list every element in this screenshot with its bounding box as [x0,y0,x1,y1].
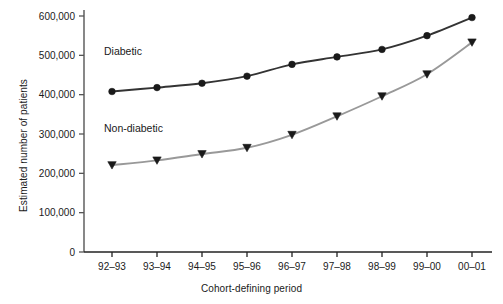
x-axis-tick-label: 93–94 [143,261,171,272]
series-annotation: Diabetic [104,45,142,57]
series-annotation: Non-diabetic [104,122,163,134]
x-axis-tick-label: 92–93 [98,261,126,272]
x-axis-title: Cohort-defining period [0,283,503,294]
x-axis-tick-label: 94–95 [188,261,216,272]
line-chart: 0100,000200,000300,000400,000500,000600,… [0,0,503,304]
y-axis-tick-label: 100,000 [39,207,76,218]
data-point-marker [424,32,431,39]
data-point-marker [199,80,206,87]
x-axis-tick-label: 00–01 [458,261,486,272]
x-axis-tick-label: 98–99 [368,261,396,272]
data-point-marker [289,61,296,68]
x-axis-tick-label: 97–98 [323,261,351,272]
data-point-marker [378,93,386,100]
y-axis-tick-label: 400,000 [39,89,76,100]
y-axis-title: Estimated number of patients [18,66,29,226]
x-axis-tick-label: 99–00 [413,261,441,272]
data-point-marker [469,14,476,21]
y-axis-tick-label: 600,000 [39,11,76,22]
data-point-marker [154,84,161,91]
data-point-marker [334,54,341,61]
data-point-marker [379,46,386,53]
x-axis-tick-label: 95–96 [233,261,261,272]
x-axis-tick-label: 96–97 [278,261,306,272]
data-point-marker [109,88,116,95]
y-axis-tick-label: 300,000 [39,129,76,140]
series-line-non-diabetic [112,42,472,165]
y-axis-tick-label: 0 [69,247,75,258]
data-point-marker [423,71,431,78]
y-axis-tick-label: 200,000 [39,168,76,179]
chart-plot-area: 0100,000200,000300,000400,000500,000600,… [0,0,503,304]
y-axis-tick-label: 500,000 [39,50,76,61]
data-point-marker [244,73,251,80]
series-line-diabetic [112,18,472,92]
